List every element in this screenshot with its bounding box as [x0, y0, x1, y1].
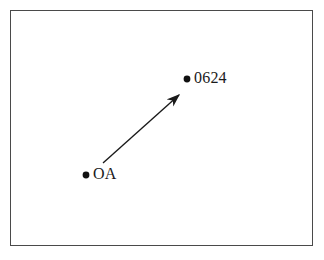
diagram-canvas [0, 0, 324, 260]
node-dot-target [184, 76, 191, 83]
node-dot-source [83, 172, 90, 179]
relation-arrow [103, 95, 179, 163]
node-label-source: OA [93, 166, 117, 182]
diagram-figure: OA 0624 [0, 0, 324, 260]
node-label-target: 0624 [194, 70, 227, 86]
